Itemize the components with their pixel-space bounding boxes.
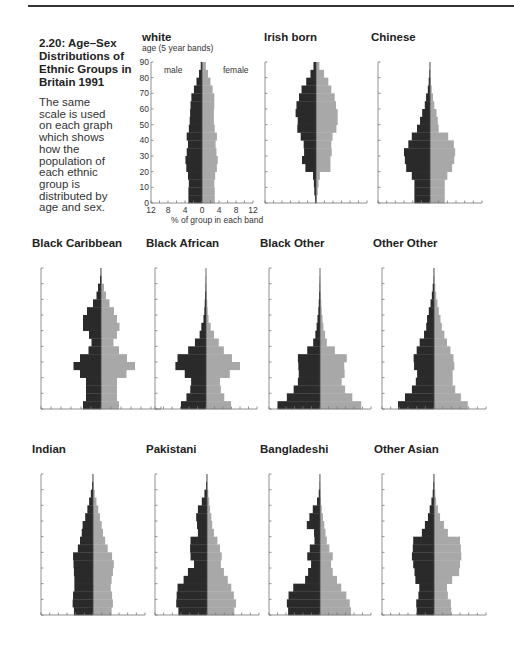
bangladeshi-male-bar-30-34	[311, 560, 320, 568]
white-y-tick-label: 70	[140, 88, 150, 98]
other-asian-female-bar-45-49	[434, 537, 460, 545]
indian-male-bar-30-34	[74, 560, 94, 568]
other-other-male-bar-65-69	[431, 299, 434, 307]
black-caribbean-female-bar-40-44	[101, 339, 114, 347]
black-caribbean-female-bar-20-24	[101, 370, 127, 378]
bangladeshi-male-bar-65-69	[313, 505, 320, 513]
pakistani-female-bar-50-54	[207, 529, 214, 537]
irish-born-male-bar-40-44	[301, 133, 316, 141]
bangladeshi-male-bar-55-59	[307, 521, 320, 529]
irish-born-female-bar-70-74	[316, 86, 331, 94]
bangladeshi-female-bar-5-9	[320, 599, 350, 607]
irish-born-male-bar-70-74	[302, 86, 316, 94]
black-african-female-bar-20-24	[206, 370, 230, 378]
black-caribbean-female-bar-60-64	[101, 307, 114, 315]
irish-born-male-bar-50-54	[298, 117, 316, 125]
white-male-bar-45-49	[189, 125, 202, 133]
white-female-bar-85-89	[202, 62, 206, 70]
other-asian-female-bar-65-69	[434, 505, 438, 513]
other-other-male-bar-25-29	[414, 362, 434, 370]
bangladeshi-female-bar-35-39	[320, 552, 333, 560]
chinese-male-bar-50-54	[420, 117, 430, 125]
black-other-male-bar-50-54	[317, 323, 320, 331]
white-female-bar-15-19	[202, 172, 215, 180]
other-asian-male-bar-45-49	[413, 537, 434, 545]
black-african-female-bar-40-44	[206, 339, 219, 347]
black-caribbean-male-bar-35-39	[89, 346, 102, 354]
pakistani-female-bar-60-64	[207, 513, 211, 521]
white-female-bar-70-74	[202, 86, 213, 94]
other-other-male-bar-55-59	[427, 315, 434, 323]
other-other-female-bar-0-4	[434, 401, 468, 409]
bangladeshi-female-bar-20-24	[320, 576, 337, 584]
black-caribbean-female-bar-25-29	[101, 362, 135, 370]
other-other-female-bar-10-14	[434, 386, 455, 394]
white-x-tick-label: 4	[183, 205, 188, 215]
bangladeshi-male-bar-10-14	[289, 592, 320, 600]
indian-male-bar-55-59	[83, 521, 93, 529]
chinese-male-bar-10-14	[414, 180, 430, 188]
black-caribbean-female-bar-0-4	[101, 401, 119, 409]
chinese-male-bar-0-4	[414, 195, 430, 203]
white-male-bar-80-84	[199, 70, 202, 78]
indian-male-bar-15-19	[74, 584, 93, 592]
bangladeshi-female-bar-60-64	[320, 513, 323, 521]
other-other-male-bar-40-44	[420, 339, 434, 347]
black-caribbean-male-bar-30-34	[80, 354, 101, 362]
white-x-tick-label: 8	[234, 205, 239, 215]
pakistani-female-bar-55-59	[207, 521, 212, 529]
black-african-male-bar-5-9	[186, 393, 206, 401]
chinese-female-bar-30-34	[430, 148, 455, 156]
white-female-bar-0-4	[202, 195, 215, 203]
chinese-female-bar-65-69	[430, 93, 433, 101]
other-asian-female-bar-60-64	[434, 513, 440, 521]
bangladeshi-female-bar-25-29	[320, 568, 333, 576]
white-y-tick-label: 10	[140, 182, 150, 192]
white-female-bar-50-54	[202, 117, 214, 125]
bangladeshi-male-bar-35-39	[307, 552, 320, 560]
white-male-bar-35-39	[188, 140, 202, 148]
other-other-female-bar-45-49	[434, 331, 444, 339]
black-caribbean-female-bar-65-69	[101, 299, 110, 307]
other-asian-male-bar-25-29	[415, 568, 435, 576]
chinese-male-bar-15-19	[412, 172, 430, 180]
irish-born-male-bar-35-39	[304, 140, 316, 148]
other-asian-male-bar-30-34	[413, 560, 434, 568]
white-female-bar-80-84	[202, 70, 208, 78]
chinese-male-bar-30-34	[404, 148, 430, 156]
indian-female-bar-50-54	[93, 529, 103, 537]
other-other-female-bar-40-44	[434, 339, 447, 347]
pakistani-female-bar-25-29	[207, 568, 224, 576]
white-x-tick-label: 12	[248, 205, 258, 215]
other-other-female-bar-20-24	[434, 370, 453, 378]
chinese-female-bar-50-54	[430, 117, 438, 125]
black-caribbean-female-bar-55-59	[101, 315, 117, 323]
other-asian-female-bar-5-9	[434, 599, 451, 607]
irish-born-female-bar-85-89	[316, 62, 319, 70]
other-asian-male-bar-60-64	[428, 513, 434, 521]
pakistani-male-bar-10-14	[177, 592, 207, 600]
black-african-female-bar-50-54	[206, 323, 211, 331]
other-other-female-bar-25-29	[434, 362, 454, 370]
pakistani-female-bar-35-39	[207, 552, 222, 560]
other-asian-male-bar-40-44	[413, 545, 434, 553]
indian-male-bar-40-44	[78, 545, 93, 553]
chinese-male-bar-5-9	[414, 187, 430, 195]
other-asian-female-bar-10-14	[434, 592, 448, 600]
black-african-female-bar-45-49	[206, 331, 214, 339]
irish-born-female-bar-50-54	[316, 117, 338, 125]
pyramid-charts: 0102030405060708090128404812	[0, 0, 514, 652]
chinese-male-bar-60-64	[425, 101, 430, 109]
white-male-bar-5-9	[188, 187, 202, 195]
other-asian-female-bar-35-39	[434, 552, 461, 560]
black-african-female-bar-30-34	[206, 354, 232, 362]
pakistani-male-bar-55-59	[197, 521, 207, 529]
white-female-bar-35-39	[202, 140, 216, 148]
black-other-male-bar-15-19	[298, 378, 320, 386]
black-african-male-bar-15-19	[191, 378, 206, 386]
black-other-female-bar-25-29	[320, 362, 344, 370]
pakistani-female-bar-20-24	[207, 576, 228, 584]
pakistani-male-bar-45-49	[191, 537, 207, 545]
bangladeshi-female-bar-50-54	[320, 529, 326, 537]
indian-male-bar-70-74	[89, 498, 93, 506]
